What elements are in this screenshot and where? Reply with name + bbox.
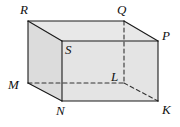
vertex-label-Q: Q (117, 3, 126, 16)
vertex-label-L: L (111, 70, 118, 83)
vertex-label-R: R (20, 3, 28, 16)
vertex-label-N: N (56, 104, 65, 117)
vertex-label-P: P (162, 29, 170, 42)
cuboid-diagram (0, 0, 180, 127)
vertex-label-M: M (8, 78, 19, 91)
vertex-label-K: K (162, 103, 171, 116)
vertex-label-S: S (65, 43, 72, 56)
face-front (62, 41, 158, 101)
figure-canvas: RQSPMLNK (0, 0, 180, 127)
